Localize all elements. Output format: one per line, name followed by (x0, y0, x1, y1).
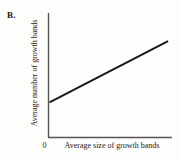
x-axis-label: Average size of growth bands (48, 140, 176, 152)
plot-area (0, 0, 180, 159)
figure-panel-b: B. Average number of growth bands 0 Aver… (0, 0, 180, 159)
trend-line (49, 41, 168, 102)
y-axis-label: Average number of growth bands (28, 9, 41, 137)
